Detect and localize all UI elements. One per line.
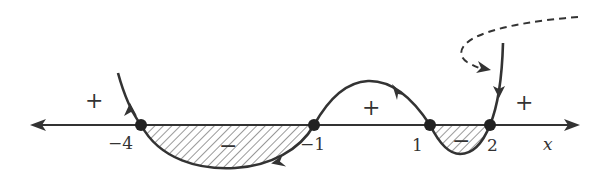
- root-label-2: 2: [487, 135, 498, 155]
- sign-interval-3: +: [362, 95, 380, 120]
- root-point-2: [484, 119, 496, 131]
- root-label-1: 1: [412, 135, 423, 155]
- x-axis-label: x: [543, 134, 553, 154]
- root-point-1: [424, 119, 436, 131]
- sign-chart-diagram: −4 −1 1 2 x + − + − +: [0, 0, 605, 179]
- root-label-neg4: −4: [108, 133, 133, 153]
- root-point-neg1: [308, 119, 320, 131]
- sign-interval-2: −: [219, 133, 237, 158]
- sign-interval-1: +: [85, 88, 103, 113]
- root-point-neg4: [135, 119, 147, 131]
- sign-interval-4: −: [452, 128, 470, 153]
- curve-arrow-up-left-icon: [124, 103, 137, 116]
- root-label-neg1: −1: [300, 134, 325, 154]
- sign-interval-5: +: [515, 90, 533, 115]
